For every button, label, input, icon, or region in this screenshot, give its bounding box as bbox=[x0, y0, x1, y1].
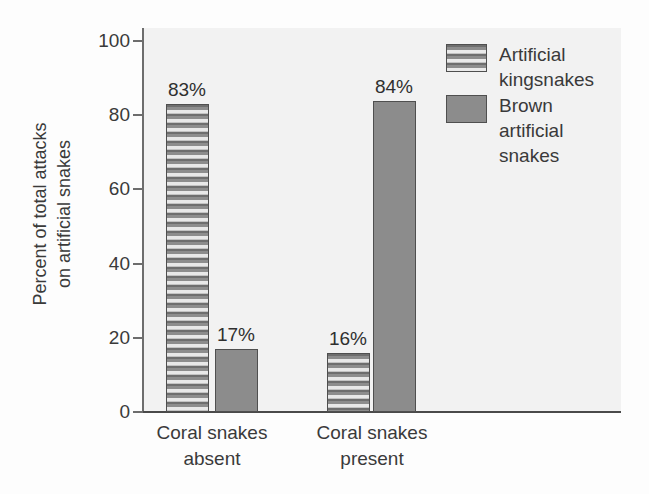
y-axis-title: Percent of total attacks on artificial s… bbox=[28, 64, 76, 364]
y-tick-60 bbox=[133, 188, 143, 190]
bar-group1-brown bbox=[215, 349, 258, 412]
y-tick-label-wrap-60: 60 bbox=[74, 179, 130, 198]
y-tick-label-80: 80 bbox=[84, 105, 130, 124]
bar-group1-kingsnakes bbox=[166, 104, 209, 412]
bar-value-group1-kingsnakes: 83% bbox=[152, 80, 222, 100]
y-tick-label-20: 20 bbox=[84, 328, 130, 347]
bar-chart-figure: 100 80 60 40 20 0 Percent of total attac… bbox=[0, 0, 649, 494]
y-tick-label-0: 0 bbox=[84, 402, 130, 421]
y-tick-label-60: 60 bbox=[84, 179, 130, 198]
y-tick-80 bbox=[133, 114, 143, 116]
y-tick-40 bbox=[133, 263, 143, 265]
bar-group2-kingsnakes bbox=[327, 353, 370, 412]
legend-label-brown: Brown artificial snakes bbox=[499, 93, 563, 168]
bar-value-group1-brown: 17% bbox=[201, 325, 271, 345]
legend-item-kingsnakes[interactable]: Artificial kingsnakes bbox=[446, 42, 594, 92]
y-tick-label-100: 100 bbox=[84, 31, 130, 50]
legend-item-brown[interactable]: Brown artificial snakes bbox=[446, 93, 563, 168]
x-category-label-absent: Coral snakes absent bbox=[122, 420, 302, 472]
y-tick-label-wrap-20: 20 bbox=[74, 328, 130, 347]
legend-label-kingsnakes: Artificial kingsnakes bbox=[499, 42, 594, 92]
x-category-label-present: Coral snakes present bbox=[282, 420, 462, 472]
y-tick-label-wrap-80: 80 bbox=[74, 105, 130, 124]
bar-value-group2-brown: 84% bbox=[359, 77, 429, 97]
y-tick-100 bbox=[133, 40, 143, 42]
bar-group2-brown bbox=[373, 101, 416, 412]
y-tick-label-wrap-40: 40 bbox=[74, 254, 130, 273]
y-tick-label-wrap-0: 0 bbox=[74, 402, 130, 421]
y-axis-line bbox=[142, 28, 144, 413]
y-tick-20 bbox=[133, 337, 143, 339]
striped-swatch-icon bbox=[446, 44, 487, 72]
y-tick-0 bbox=[133, 411, 143, 413]
solid-swatch-icon bbox=[446, 95, 487, 123]
y-tick-label-wrap-100: 100 bbox=[74, 31, 130, 50]
y-tick-label-40: 40 bbox=[84, 254, 130, 273]
